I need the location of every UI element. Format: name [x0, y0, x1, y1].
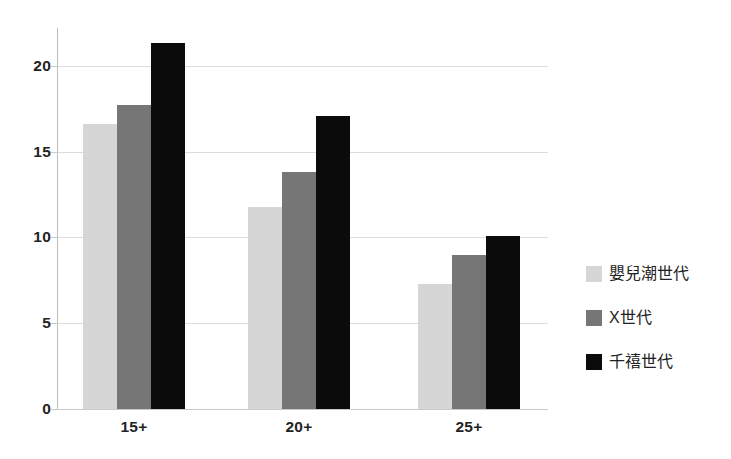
bar-group: [418, 28, 520, 409]
y-axis-tick-label: 0: [7, 400, 51, 418]
y-axis-tick-label: 15: [7, 143, 51, 161]
bar: [452, 255, 486, 409]
y-axis-tick-mark: [51, 409, 58, 410]
y-axis-tick-label: 5: [7, 314, 51, 332]
bar: [486, 236, 520, 409]
x-axis-tick-label: 20+: [239, 418, 359, 436]
y-axis-tick-mark: [51, 66, 58, 67]
bar: [418, 284, 452, 409]
plot-area: [58, 28, 548, 409]
legend-swatch-icon: [586, 266, 602, 282]
y-axis-tick-label: 20: [7, 57, 51, 75]
y-axis-line: [57, 28, 58, 409]
bar: [117, 105, 151, 409]
bar: [316, 116, 350, 409]
legend-item[interactable]: 嬰兒潮世代: [586, 266, 689, 282]
legend-item-label: X世代: [609, 310, 652, 326]
legend-swatch-icon: [586, 310, 602, 326]
x-axis-tick-labels: 15+20+25+: [58, 418, 548, 442]
x-axis-line: [58, 409, 548, 410]
x-axis-tick-label: 25+: [409, 418, 529, 436]
bar: [83, 124, 117, 409]
y-axis-tick-mark: [51, 237, 58, 238]
bar: [248, 207, 282, 410]
bar: [282, 172, 316, 409]
y-axis-tick-labels: 05101520: [0, 0, 51, 459]
legend-item[interactable]: 千禧世代: [586, 354, 673, 370]
x-axis-tick-label: 15+: [74, 418, 194, 436]
bar-group: [83, 28, 185, 409]
bar-chart: 05101520 15+20+25+ 嬰兒潮世代X世代千禧世代: [0, 0, 731, 459]
legend-item-label: 千禧世代: [609, 354, 673, 370]
y-axis-tick-mark: [51, 323, 58, 324]
legend-swatch-icon: [586, 354, 602, 370]
y-axis-tick-mark: [51, 152, 58, 153]
y-axis-tick-label: 10: [7, 228, 51, 246]
legend-item-label: 嬰兒潮世代: [609, 266, 689, 282]
legend-item[interactable]: X世代: [586, 310, 652, 326]
bar: [151, 43, 185, 409]
bar-group: [248, 28, 350, 409]
